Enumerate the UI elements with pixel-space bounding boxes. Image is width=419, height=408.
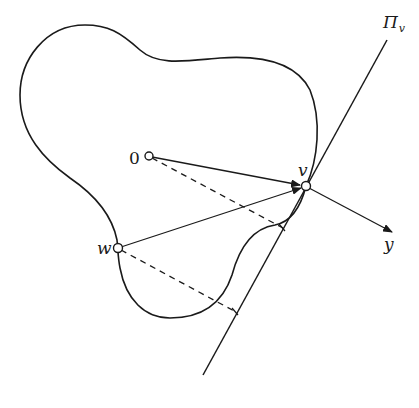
- projection-origin-dashed: [152, 158, 283, 228]
- tangent-plane-label: Πv: [383, 14, 404, 31]
- y-label: y: [384, 236, 394, 253]
- point-v: [302, 182, 311, 191]
- projection-w-dashed: [121, 250, 236, 312]
- tangent-plane-label-sub: v: [399, 22, 405, 35]
- v-label: v: [298, 162, 308, 179]
- point-w: [114, 244, 123, 253]
- tangent-plane-line: [203, 40, 387, 375]
- origin-label: 0: [129, 150, 140, 167]
- vector-origin-to-v: [152, 157, 300, 185]
- tangent-plane-label-main: Π: [383, 12, 398, 32]
- body-boundary-curve: [20, 25, 317, 318]
- vector-y: [309, 188, 392, 232]
- vector-w-to-v: [121, 188, 301, 247]
- w-label: w: [97, 240, 112, 257]
- convex-body-diagram: [0, 0, 419, 408]
- origin-point: [145, 152, 153, 160]
